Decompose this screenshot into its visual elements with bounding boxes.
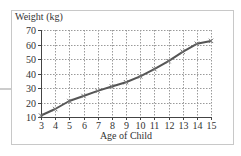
y-tick-label: 30 bbox=[26, 83, 36, 94]
x-axis-label: Age of Child bbox=[100, 130, 152, 141]
y-tick-label: 50 bbox=[26, 54, 36, 65]
weight-by-age-chart: Weight (kg) 10203040506070 3456789101112… bbox=[0, 0, 241, 156]
y-tick-label: 60 bbox=[26, 40, 36, 51]
x-tick-label: 4 bbox=[53, 120, 58, 131]
y-tick-label: 40 bbox=[26, 69, 36, 80]
x-tick-label: 3 bbox=[39, 120, 44, 131]
y-tick-label: 20 bbox=[26, 98, 36, 109]
x-tick-label: 12 bbox=[165, 120, 175, 131]
y-tick-label: 10 bbox=[26, 112, 36, 123]
x-tick-label: 6 bbox=[82, 120, 87, 131]
y-tick-label: 70 bbox=[26, 25, 36, 36]
x-tick-label: 14 bbox=[193, 120, 203, 131]
y-tick-labels: 10203040506070 bbox=[26, 25, 36, 123]
x-tick-label: 5 bbox=[67, 120, 72, 131]
y-axis-label: Weight (kg) bbox=[15, 11, 63, 23]
x-tick-label: 13 bbox=[179, 120, 189, 131]
x-tick-label: 15 bbox=[207, 120, 217, 131]
